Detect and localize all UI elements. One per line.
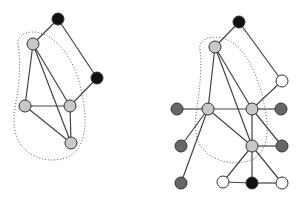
edge-E-H <box>181 109 208 146</box>
node-a-black <box>52 13 64 25</box>
node-L-white <box>217 176 229 188</box>
node-C-white <box>276 75 288 87</box>
node-E-light-gray <box>202 103 214 115</box>
node-c-black <box>91 72 103 84</box>
node-F-light-gray <box>246 103 258 115</box>
node-J-dark-gray <box>276 140 288 152</box>
node-G-dark-gray <box>275 103 287 115</box>
node-K-dark-gray <box>175 177 187 189</box>
node-I-light-gray <box>246 140 258 152</box>
node-H-dark-gray <box>175 140 187 152</box>
graph-diagram <box>0 0 300 200</box>
node-b-light-gray <box>27 38 39 50</box>
left-graph <box>14 13 103 160</box>
edge-F-J <box>252 109 282 146</box>
node-A-black <box>233 16 245 28</box>
edge-b-e <box>33 44 70 106</box>
node-d-light-gray <box>19 100 31 112</box>
edge-I-N <box>252 146 282 183</box>
node-B-light-gray <box>209 41 221 53</box>
node-D-dark-gray <box>171 103 183 115</box>
node-N-white <box>276 177 288 189</box>
node-f-light-gray <box>65 137 77 149</box>
right-edges <box>177 22 282 183</box>
edge-I-L <box>223 146 252 182</box>
node-e-light-gray <box>64 100 76 112</box>
node-M-black <box>246 177 258 189</box>
right-graph <box>171 16 288 189</box>
edge-a-c <box>58 19 97 78</box>
left-nodes <box>19 13 103 149</box>
left-edges <box>25 19 97 143</box>
edge-b-d <box>25 44 33 106</box>
edge-A-C <box>239 22 282 81</box>
edge-B-E <box>208 47 215 109</box>
edge-B-F <box>215 47 252 109</box>
